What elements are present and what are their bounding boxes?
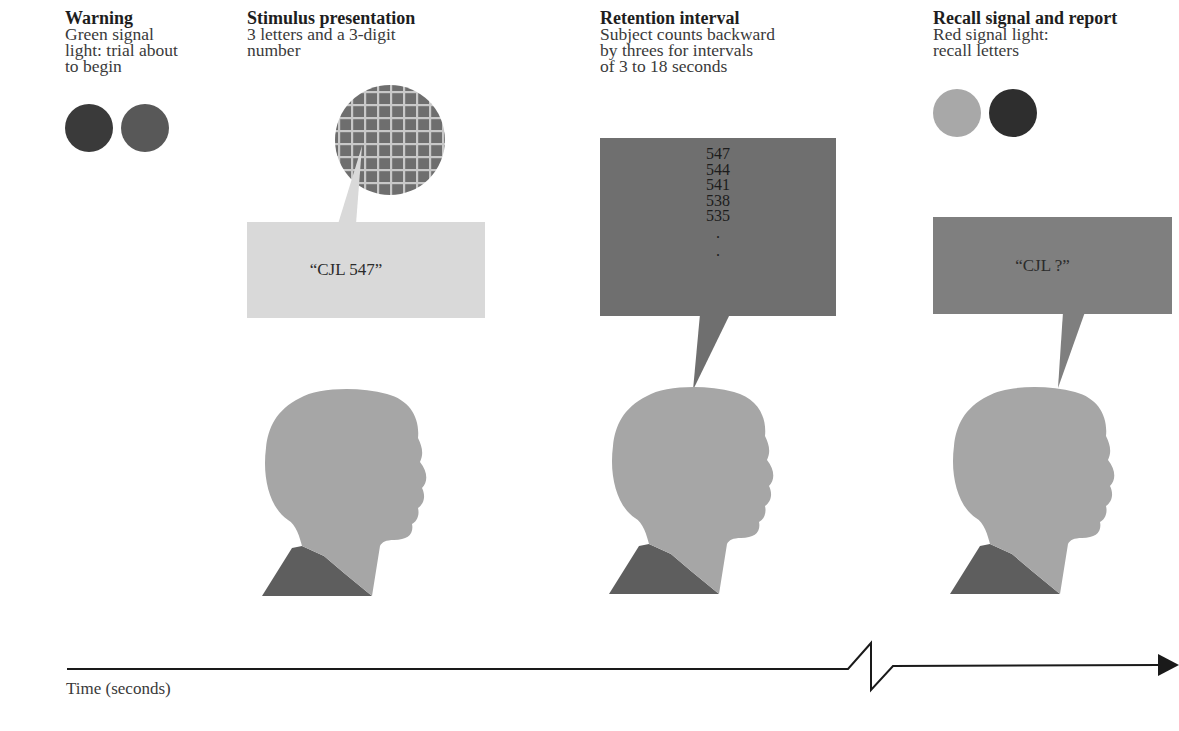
stimulus-display-icon [335, 85, 445, 195]
recall-light-1-icon [933, 89, 981, 137]
count-item: 541 [600, 177, 836, 193]
subject-head-icon [950, 387, 1114, 594]
subject-head-icon [609, 387, 773, 594]
count-item: . [600, 242, 836, 260]
recall-speech-text: “CJL ?” [933, 256, 1172, 276]
diagram-canvas: Warning Green signal light: trial about … [0, 0, 1179, 731]
subject-head-icon [262, 389, 426, 596]
time-axis-label: Time (seconds) [66, 679, 171, 699]
stage-recall: Recall signal and report Red signal ligh… [933, 10, 1117, 58]
stage-description: Red signal light: recall letters [933, 26, 1117, 58]
stage-warning: Warning Green signal light: trial about … [65, 10, 178, 74]
recall-light-2-icon [989, 89, 1037, 137]
time-axis [67, 643, 1179, 690]
arrow-right-icon [1158, 654, 1179, 676]
stage-description: Subject counts backward by threes for in… [600, 26, 775, 74]
stage-retention: Retention interval Subject counts backwa… [600, 10, 775, 74]
stimulus-speech-text: “CJL 547” [247, 260, 485, 280]
stage-stimulus: Stimulus presentation 3 letters and a 3-… [247, 10, 415, 58]
warning-light-1-icon [65, 104, 113, 152]
stage-description: Green signal light: trial about to begin [65, 26, 178, 74]
count-item: 538 [600, 193, 836, 209]
count-item: . [600, 224, 836, 242]
count-item: 535 [600, 208, 836, 224]
warning-light-2-icon [121, 104, 169, 152]
count-item: 544 [600, 162, 836, 178]
counting-list: 547 544 541 538 535 . . [600, 146, 836, 260]
diagram-artwork [0, 0, 1179, 731]
stage-description: 3 letters and a 3-digit number [247, 26, 415, 58]
count-item: 547 [600, 146, 836, 162]
